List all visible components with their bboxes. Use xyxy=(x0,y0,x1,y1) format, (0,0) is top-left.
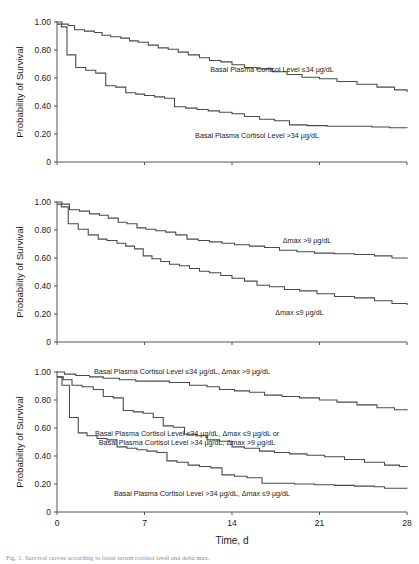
y-tick-label: 1.00 xyxy=(34,197,51,207)
survival-curve xyxy=(57,372,407,411)
survival-figure: 1.000.800.600.400.200Probability of Surv… xyxy=(0,0,419,564)
survival-curve xyxy=(57,377,407,467)
y-tick-label: 0.40 xyxy=(34,101,51,111)
x-axis-title: Time, d xyxy=(216,535,249,546)
y-tick-label: 0.40 xyxy=(34,451,51,461)
x-tick-label: 21 xyxy=(315,518,325,528)
figure-canvas: 1.000.800.600.400.200Probability of Surv… xyxy=(0,0,419,564)
x-tick-label: 28 xyxy=(402,518,412,528)
curve-label: Δmax >9 µg/dL xyxy=(283,236,332,245)
y-axis-title: Probability of Survival xyxy=(14,46,25,137)
survival-curve xyxy=(57,24,407,128)
survival-curve xyxy=(57,22,407,92)
y-tick-label: 0.80 xyxy=(34,225,51,235)
y-axis-title: Probability of Survival xyxy=(14,396,25,487)
curve-label: Basal Plasma Cortisol Level ≤34 µg/dL xyxy=(210,65,334,74)
panel-c: 1.000.800.600.400.20007142128Probability… xyxy=(14,367,412,528)
panel-b: 1.000.800.600.400.200Probability of Surv… xyxy=(14,197,407,347)
figure-caption: Fig. 1. Survival curves according to bas… xyxy=(6,554,210,561)
y-tick-label: 0.60 xyxy=(34,423,51,433)
x-tick-label: 7 xyxy=(142,518,147,528)
x-tick-label: 14 xyxy=(227,518,237,528)
y-tick-label: 0.20 xyxy=(34,309,51,319)
curve-label: Δmax ≤9 µg/dL xyxy=(275,308,323,317)
curve-label: Basal Plasma Cortisol Level >34 µg/dL, Δ… xyxy=(114,489,290,498)
y-tick-label: 0.40 xyxy=(34,281,51,291)
panel-a: 1.000.800.600.400.200Probability of Surv… xyxy=(14,17,407,167)
curve-label: Basal Plasma Cortisol Level >34 µg/dL xyxy=(195,131,319,140)
y-tick-label: 0 xyxy=(46,157,51,167)
y-tick-label: 0.20 xyxy=(34,479,51,489)
y-tick-label: 0.60 xyxy=(34,73,51,83)
y-tick-label: 0 xyxy=(46,507,51,517)
y-tick-label: 0.80 xyxy=(34,45,51,55)
curve-label: Basal Plasma Cortisol Level >34 µg/dL, Δ… xyxy=(99,438,276,447)
survival-curve xyxy=(57,202,407,259)
y-tick-label: 0.20 xyxy=(34,129,51,139)
x-tick-label: 0 xyxy=(55,518,60,528)
curve-label: Basal Plasma Cortisol Level ≤34 µg/dL, Δ… xyxy=(94,367,270,376)
y-axis-title: Probability of Survival xyxy=(14,226,25,317)
y-tick-label: 1.00 xyxy=(34,17,51,27)
y-tick-label: 0 xyxy=(46,337,51,347)
y-tick-label: 1.00 xyxy=(34,367,51,377)
y-tick-label: 0.60 xyxy=(34,253,51,263)
y-tick-label: 0.80 xyxy=(34,395,51,405)
curve-label: Basal Plasma Cortisol Level ≤34 µg/dL, Δ… xyxy=(95,429,280,438)
